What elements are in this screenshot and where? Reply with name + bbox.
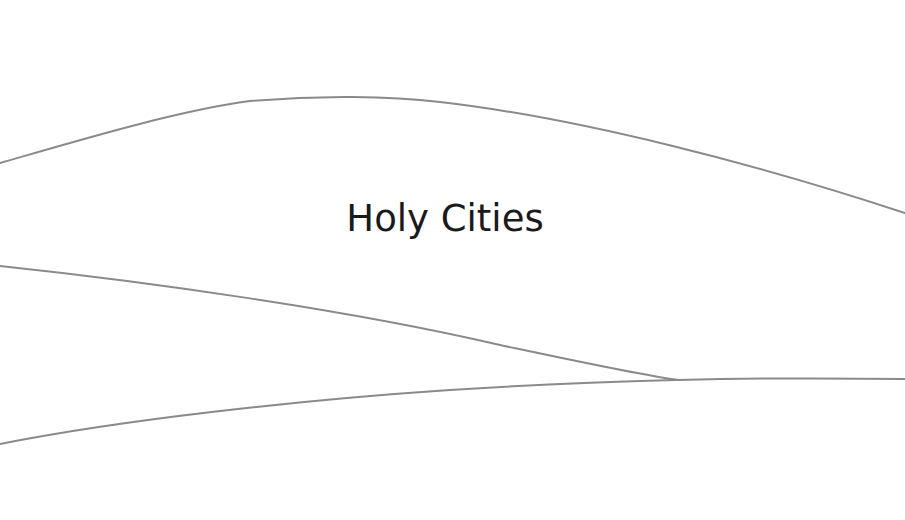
curve-line-bottom [0, 378, 905, 444]
curve-line-middle [0, 266, 678, 380]
slide-title: Holy Cities [0, 194, 890, 244]
decorative-curves [0, 0, 905, 520]
title-slide: Holy Cities [0, 0, 905, 520]
